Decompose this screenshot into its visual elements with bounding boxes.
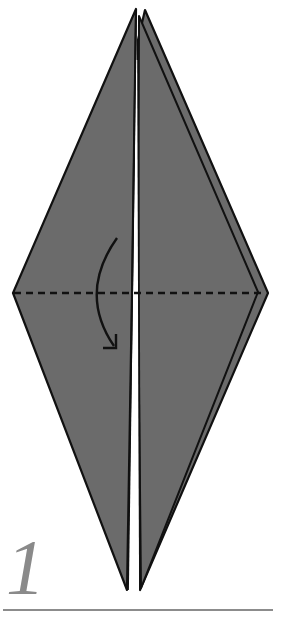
right-front-panel <box>138 16 258 588</box>
baseline-divider <box>3 609 273 611</box>
step-number: 1 <box>6 528 45 606</box>
left-panel <box>13 9 136 590</box>
